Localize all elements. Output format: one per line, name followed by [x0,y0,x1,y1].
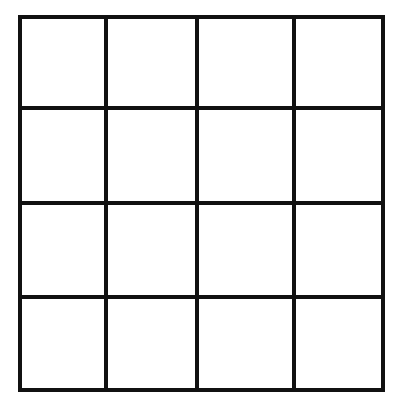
grid-cell-r1-c3 [197,17,294,108]
grid-cell-r2-c3 [197,108,294,203]
grid-cell-r3-c4 [294,203,383,297]
grid-cell-r4-c3 [197,297,294,390]
grid-cell-r3-c1 [20,203,106,297]
grid-cell-r3-c3 [197,203,294,297]
grid-cell-r4-c2 [106,297,197,390]
grid-cell-r2-c1 [20,108,106,203]
grid-cell-r4-c1 [20,297,106,390]
grid-cell-r2-c4 [294,108,383,203]
grid-cell-r4-c4 [294,297,383,390]
grid-cell-r1-c2 [106,17,197,108]
grid-cell-r1-c1 [20,17,106,108]
grid-cell-r1-c4 [294,17,383,108]
grid-cell-r3-c2 [106,203,197,297]
grid-cell-r2-c2 [106,108,197,203]
grid-diagram [0,0,402,408]
